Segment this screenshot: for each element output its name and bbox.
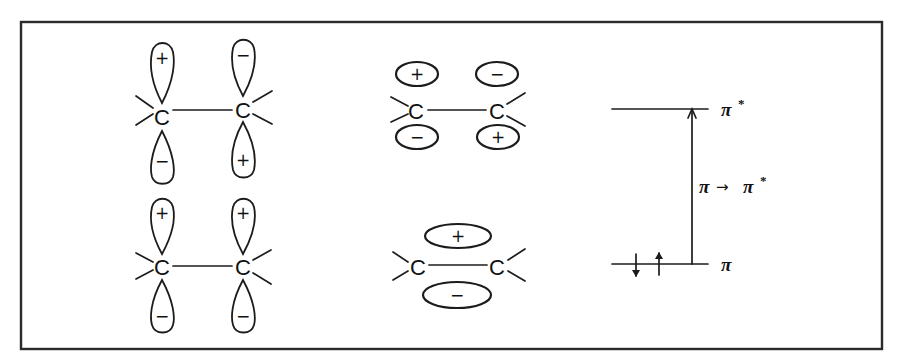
sign-plus: +	[491, 127, 505, 147]
sign-plus: +	[236, 150, 250, 170]
energy-diagram: π * π π → π *	[612, 96, 767, 277]
p-orbital-panel-antibonding: + − C − + C	[136, 40, 272, 184]
carbon-atom: C	[408, 99, 424, 124]
sign-plus: +	[451, 226, 465, 246]
substituent-bond	[391, 114, 408, 122]
pi-star-superscript: *	[738, 96, 745, 111]
carbon-right: + − C	[232, 199, 271, 333]
orbital-diagram: + − C − + C + − C	[0, 0, 901, 360]
electron-spin-down-arrowhead-icon	[632, 270, 640, 277]
transition-from-label: π	[699, 176, 710, 197]
carbon-atom: C	[235, 98, 251, 123]
sign-minus: −	[155, 306, 169, 326]
substituent-bond	[253, 250, 271, 260]
sign-minus: −	[450, 285, 464, 305]
substituent-bond	[507, 116, 525, 126]
transition-arrow-glyph: →	[716, 178, 729, 196]
carbon-right: − + C	[232, 40, 272, 178]
substituent-bond	[253, 114, 272, 124]
pi-label: π	[721, 254, 732, 275]
substituent-bond	[136, 96, 153, 108]
substituent-bond	[391, 97, 408, 106]
carbon-left: + − C	[136, 199, 174, 333]
substituent-bond	[393, 252, 408, 262]
sign-plus: +	[155, 48, 169, 68]
carbon-atom: C	[235, 255, 251, 280]
substituent-bond	[136, 114, 153, 125]
carbon-atom: C	[154, 105, 170, 130]
carbon-atom: C	[489, 255, 505, 280]
pi-star-label: π	[721, 99, 732, 120]
substituent-bond	[253, 273, 271, 284]
transition-to-label: π	[743, 176, 754, 197]
substituent-bond	[508, 271, 525, 281]
carbon-left: + − C	[136, 43, 174, 184]
sign-plus: +	[155, 203, 169, 223]
substituent-bond	[136, 253, 153, 262]
carbon-atom: C	[154, 255, 170, 280]
substituent-bond	[508, 249, 525, 260]
substituent-bond	[136, 270, 153, 279]
carbon-atom: C	[489, 99, 505, 124]
substituent-bond	[393, 271, 408, 280]
p-orbital-panel-bonding: + − C + − C	[136, 199, 271, 333]
sign-minus: −	[236, 306, 250, 326]
electron-spin-up-arrowhead-icon	[655, 252, 663, 259]
sign-minus: −	[490, 64, 504, 84]
sign-plus: +	[410, 64, 424, 84]
mo-panel-pi: + − C C	[393, 224, 525, 308]
substituent-bond	[507, 93, 525, 104]
carbon-atom: C	[410, 255, 426, 280]
substituent-bond	[253, 91, 272, 102]
transition-superscript: *	[760, 173, 767, 188]
sign-plus: +	[236, 203, 250, 223]
sign-minus: −	[155, 151, 169, 171]
sign-minus: −	[410, 127, 424, 147]
mo-panel-pi-star: + − − + C C	[391, 62, 525, 149]
sign-minus: −	[236, 45, 250, 65]
